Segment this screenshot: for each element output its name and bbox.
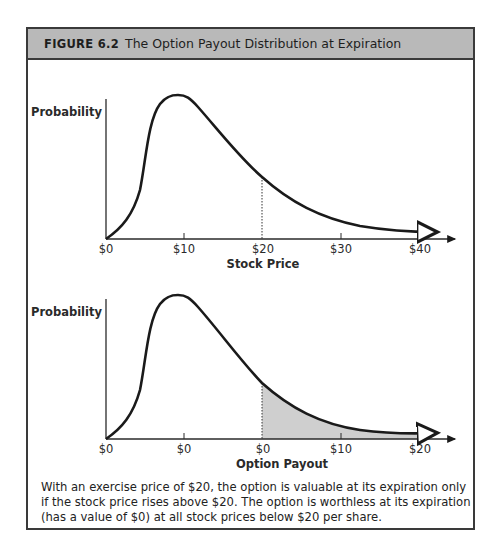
y-axis-title: Probability <box>31 305 103 319</box>
x-tick-label: $40 <box>409 242 431 256</box>
payout-shaded-area <box>262 383 430 439</box>
x-tick-label: $0 <box>177 442 192 456</box>
x-tick-label: $0 <box>99 442 114 456</box>
y-axis-title: Probability <box>31 105 103 119</box>
probability-curve <box>106 95 435 239</box>
figure-caption: With an exercise price of $20, the optio… <box>41 480 471 525</box>
x-ticks <box>184 233 420 239</box>
chart-stock-price: Probability $0 $10 $20 $30 $40 Stock Pri… <box>31 95 455 271</box>
x-axis-title: Stock Price <box>227 257 300 271</box>
x-tick-label: $0 <box>256 442 271 456</box>
x-tick-label: $0 <box>99 242 114 256</box>
x-tick-label: $10 <box>330 442 352 456</box>
x-tick-label: $30 <box>330 242 352 256</box>
x-tick-label: $20 <box>252 242 274 256</box>
x-tick-label: $20 <box>409 442 431 456</box>
charts-canvas: Probability $0 $10 $20 $30 $40 Stock Pri… <box>0 0 501 552</box>
x-axis-title: Option Payout <box>236 457 329 471</box>
x-tick-label: $10 <box>173 242 195 256</box>
chart-option-payout: Probability $0 $0 $0 $10 $20 Option Payo… <box>31 295 455 471</box>
